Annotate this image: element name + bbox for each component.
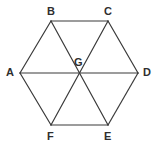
hexagon-diagonals <box>20 21 138 125</box>
hexagon-diagram <box>0 0 159 149</box>
hexagon-figure: ABCDEFG <box>0 0 159 149</box>
vertex-label-c: C <box>104 6 112 17</box>
hexagon-edge-de <box>108 73 138 125</box>
vertex-label-d: D <box>143 67 151 78</box>
vertex-label-g: G <box>74 57 83 68</box>
hexagon-edge-ab <box>20 21 51 73</box>
vertex-label-a: A <box>6 67 14 78</box>
vertex-label-b: B <box>47 6 55 17</box>
hexagon-edge-cd <box>108 21 138 73</box>
hexagon-edge-fa <box>20 73 51 125</box>
vertex-label-e: E <box>104 131 111 142</box>
vertex-label-f: F <box>47 131 54 142</box>
